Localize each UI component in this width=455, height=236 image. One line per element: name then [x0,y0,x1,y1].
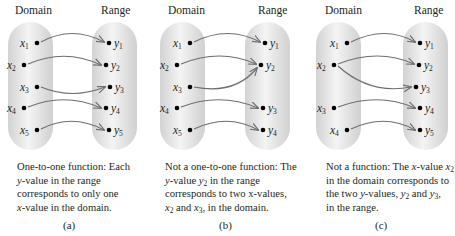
panel-b-caption: Not a one-to-one function: The y-value y… [165,160,315,214]
panel-c: Domain Range Not a function: The x-value… [303,0,455,236]
range-header: Range [258,4,287,16]
panel-a: Domain Range One-to-one function: Each y… [0,0,152,236]
panel-b: Domain Range Not a one-to-one function: … [152,0,304,236]
range-header: Range [101,4,130,16]
panel-b-label: (b) [219,219,232,231]
domain-header: Domain [325,4,362,16]
domain-header: Domain [168,4,205,16]
panel-a-label: (a) [63,219,75,231]
panel-a-caption: One-to-one function: Each y-value in the… [17,160,167,214]
domain-header: Domain [15,4,52,16]
panel-c-caption: Not a function: The x-value x2 in the do… [326,160,455,214]
panel-c-label: (c) [375,219,387,231]
range-header: Range [414,4,443,16]
